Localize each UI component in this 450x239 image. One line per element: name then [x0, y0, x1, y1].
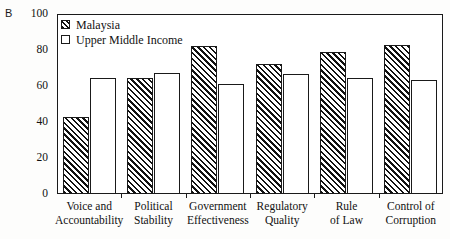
- y-tick-label: 80: [37, 44, 49, 56]
- x-tick-mark: [186, 194, 187, 198]
- x-axis-labels: Voice andAccountabilityPoliticalStabilit…: [57, 200, 450, 239]
- bar-group: [384, 14, 437, 194]
- bar: [218, 84, 244, 194]
- bar: [411, 80, 437, 194]
- bar: [384, 45, 410, 194]
- bar-group: [256, 14, 309, 194]
- x-tick-mark: [250, 194, 251, 198]
- bar-group: [320, 14, 373, 194]
- chart-screenshot: B 020406080100 Voice andAccountabilityPo…: [0, 0, 450, 239]
- y-tick-label: 40: [37, 116, 49, 128]
- legend-item: Upper Middle Income: [61, 32, 211, 47]
- chart-legend: MalaysiaUpper Middle Income: [61, 17, 211, 47]
- y-tick-label: 60: [37, 80, 49, 92]
- x-tick-mark: [379, 194, 380, 198]
- bar: [347, 78, 373, 194]
- bar: [127, 78, 153, 194]
- bar: [320, 52, 346, 194]
- x-axis-label-line: Corruption: [371, 214, 450, 228]
- x-axis-label: Control ofCorruption: [371, 200, 450, 227]
- y-tick-label: 20: [37, 152, 49, 164]
- y-tick-label: 100: [31, 8, 48, 20]
- bar: [90, 78, 116, 194]
- legend-swatch-icon: [61, 35, 70, 44]
- x-tick-mark: [121, 194, 122, 198]
- legend-label: Upper Middle Income: [76, 34, 183, 46]
- x-tick-mark: [314, 194, 315, 198]
- legend-item: Malaysia: [61, 17, 211, 32]
- x-axis-ticks: [57, 194, 443, 199]
- y-tick-label: 0: [42, 188, 48, 200]
- x-axis-label-line: Control of: [371, 200, 450, 214]
- bar: [256, 64, 282, 194]
- bar: [283, 74, 309, 194]
- bar: [63, 117, 89, 194]
- bar: [191, 46, 217, 194]
- legend-label: Malaysia: [76, 19, 120, 31]
- legend-swatch-icon: [61, 20, 70, 29]
- y-axis: 020406080100: [0, 0, 57, 194]
- bar: [154, 73, 180, 195]
